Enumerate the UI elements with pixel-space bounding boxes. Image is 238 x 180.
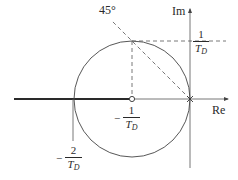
dashed-45-degree-line (111, 20, 190, 99)
center-denominator: TD (123, 118, 140, 132)
imag-top-denominator: TD (193, 42, 209, 56)
denominator-sub: D (201, 47, 207, 56)
center-label-sign: − (114, 113, 120, 124)
center-fraction-label: 1 TD (123, 105, 140, 132)
real-axis-label: Re (212, 104, 225, 116)
imag-top-numerator: 1 (193, 29, 209, 42)
root-locus-diagram (0, 0, 238, 180)
left-crossing-fraction-label: 2 TD (65, 145, 82, 172)
left-crossing-numerator: 2 (65, 145, 82, 158)
imaginary-axis-label: Im (172, 5, 185, 17)
left-crossing-label-sign: − (56, 153, 62, 164)
center-numerator: 1 (123, 105, 140, 118)
denominator-sub: D (74, 163, 80, 172)
zero-marker-icon (129, 96, 134, 101)
imag-top-fraction-label: 1 TD (193, 29, 209, 56)
denominator-sub: D (132, 123, 138, 132)
angle-label: 45° (99, 4, 116, 16)
left-crossing-denominator: TD (65, 158, 82, 172)
